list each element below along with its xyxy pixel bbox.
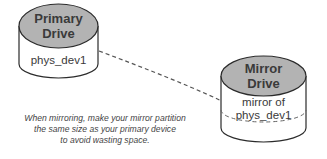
caption-line1: When mirroring, make your mirror partiti… — [0, 113, 210, 124]
mirror-drive-cylinder: Mirror Drive mirror of phys_dev1 — [221, 56, 306, 142]
mirror-drive-title-line1: Mirror — [245, 61, 283, 76]
caption-line3: to avoid wasting space. — [0, 135, 210, 146]
primary-drive-cylinder: Primary Drive phys_dev1 — [19, 4, 98, 78]
mirror-partition-label-line1: mirror of — [242, 96, 286, 108]
mirror-drive-title-line2: Drive — [247, 76, 280, 91]
mirror-arrow — [99, 51, 232, 106]
primary-partition-label: phys_dev1 — [31, 54, 87, 66]
caption-line2: the same size as your primary device — [0, 124, 210, 135]
mirror-partition-label-line2: phys_dev1 — [236, 109, 292, 121]
primary-drive-title-line2: Drive — [42, 26, 75, 41]
caption: When mirroring, make your mirror partiti… — [0, 113, 210, 146]
primary-drive-title-line1: Primary — [34, 11, 83, 26]
